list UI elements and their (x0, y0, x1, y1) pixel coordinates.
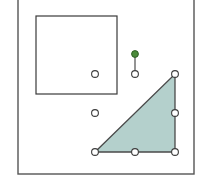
square-shape[interactable] (36, 16, 117, 94)
resize-handle-bottom-right[interactable] (172, 149, 179, 156)
resize-handle-top-left[interactable] (92, 71, 99, 78)
resize-handle-middle-right[interactable] (172, 110, 179, 117)
resize-handle-top-right[interactable] (172, 71, 179, 78)
rotation-handle[interactable] (132, 51, 139, 58)
resize-handle-middle-left[interactable] (92, 110, 99, 117)
resize-handle-bottom-left[interactable] (92, 149, 99, 156)
resize-handle-top-middle[interactable] (132, 71, 139, 78)
drawing-canvas[interactable] (0, 0, 208, 183)
resize-handle-bottom-middle[interactable] (132, 149, 139, 156)
